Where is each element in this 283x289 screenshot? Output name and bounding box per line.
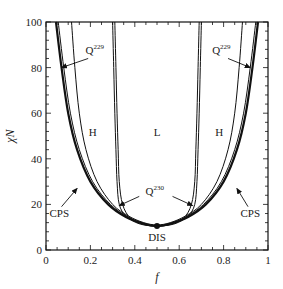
annotation-arrow xyxy=(173,196,193,205)
annotation-label: CPS xyxy=(50,207,70,219)
y-tick-label: 40 xyxy=(31,153,43,165)
annotation-label: L xyxy=(154,126,161,138)
annotation-arrow xyxy=(237,188,248,206)
annotation-arrow xyxy=(119,196,139,205)
annotation-label: Q229 xyxy=(86,43,105,56)
annotation-label: Q230 xyxy=(146,184,165,197)
y-axis-label: χN xyxy=(3,128,17,143)
y-tick-label: 80 xyxy=(31,62,43,74)
x-tick-label: 0.2 xyxy=(84,254,98,266)
chart-svg: 00.20.40.60.81020406080100 HLHQ229Q229Q2… xyxy=(0,0,283,289)
x-tick-label: 0 xyxy=(43,254,49,266)
annotation-label: CPS xyxy=(240,207,260,219)
y-tick-label: 100 xyxy=(26,16,43,28)
x-tick-label: 0.8 xyxy=(217,254,231,266)
dis-point-marker xyxy=(154,223,160,229)
phase-boundary-line xyxy=(115,22,199,226)
annotation-label: Q229 xyxy=(212,43,231,56)
y-tick-label: 20 xyxy=(31,198,43,210)
y-tick-label: 60 xyxy=(31,107,43,119)
annotation-label: DIS xyxy=(148,231,166,243)
x-tick-label: 0.4 xyxy=(128,254,142,266)
phase-diagram-chart: 00.20.40.60.81020406080100 HLHQ229Q229Q2… xyxy=(0,0,283,289)
annotation-label: H xyxy=(89,126,97,138)
x-tick-label: 1 xyxy=(265,254,271,266)
y-tick-label: 0 xyxy=(37,244,43,256)
phase-boundary-line xyxy=(113,22,202,226)
annotation-label: H xyxy=(215,126,223,138)
x-axis-label: f xyxy=(155,270,160,284)
annotation-arrow xyxy=(62,188,78,206)
annotations: HLHQ229Q229Q230CPSCPSDIS xyxy=(50,43,260,243)
x-tick-label: 0.6 xyxy=(172,254,186,266)
